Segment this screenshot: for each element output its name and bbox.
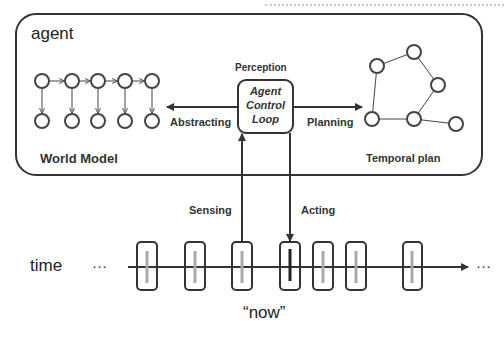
- sensing-label: Sensing: [189, 204, 232, 216]
- world-model-graph: [35, 74, 159, 128]
- temporal-plan-graph: [365, 45, 463, 131]
- perception-label: Perception: [235, 62, 287, 73]
- temporal-plan-label: Temporal plan: [366, 152, 440, 164]
- acting-label: Acting: [301, 204, 335, 216]
- loop-line-3: Loop: [238, 112, 293, 126]
- agent-label: agent: [31, 24, 74, 44]
- now-label: “now”: [243, 303, 286, 323]
- agent-control-loop-text: Agent Control Loop: [238, 84, 293, 126]
- planning-label: Planning: [307, 116, 353, 128]
- left-ellipsis: ···: [92, 257, 107, 274]
- loop-line-1: Agent: [238, 84, 293, 98]
- abstracting-label: Abstracting: [170, 116, 231, 128]
- time-label: time: [30, 256, 62, 276]
- world-model-label: World Model: [40, 151, 118, 166]
- right-ellipsis: ···: [476, 257, 491, 274]
- loop-line-2: Control: [238, 98, 293, 112]
- diagram-canvas: [0, 0, 504, 337]
